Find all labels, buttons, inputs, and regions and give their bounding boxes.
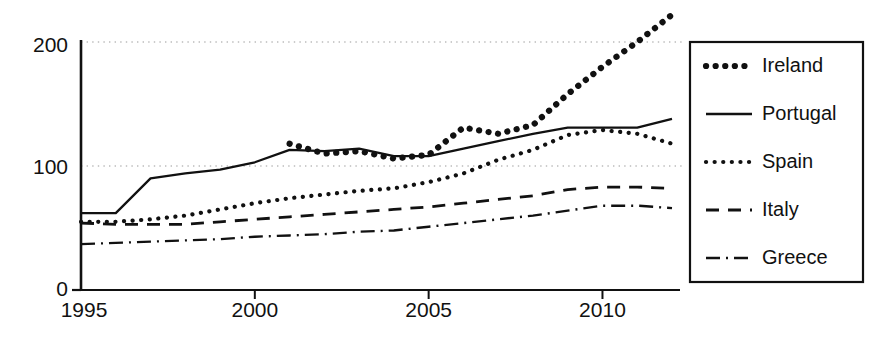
legend-label-portugal: Portugal [762, 102, 837, 124]
series-line-portugal [81, 119, 672, 213]
axes [72, 40, 680, 299]
series-line-ireland [290, 15, 672, 159]
legend-label-ireland: Ireland [762, 54, 823, 76]
x-tick-label-2000: 2000 [231, 298, 278, 321]
x-tick-label-2010: 2010 [579, 298, 626, 321]
legend-label-greece: Greece [762, 246, 828, 268]
y-tick-label-0: 0 [56, 277, 68, 300]
y-axis-tick-labels: 200 100 0 [33, 33, 68, 300]
chart-figure: 200 100 0 1995 2000 2005 2010 IrelandPor… [0, 0, 883, 355]
gridlines [81, 42, 682, 166]
x-tick-label-1995: 1995 [61, 298, 108, 321]
x-axis-tick-labels: 1995 2000 2005 2010 [61, 298, 626, 321]
y-tick-label-200: 200 [33, 33, 68, 56]
chart-legend: IrelandPortugalSpainItalyGreece [690, 42, 863, 282]
figure-canvas: 200 100 0 1995 2000 2005 2010 IrelandPor… [0, 0, 883, 355]
legend-label-italy: Italy [762, 198, 799, 220]
data-series-layer [81, 15, 672, 244]
x-tick-label-2005: 2005 [405, 298, 452, 321]
y-tick-label-100: 100 [33, 155, 68, 178]
series-line-italy [81, 187, 672, 224]
legend-label-spain: Spain [762, 150, 813, 172]
line-chart-svg: 200 100 0 1995 2000 2005 2010 IrelandPor… [0, 0, 883, 355]
